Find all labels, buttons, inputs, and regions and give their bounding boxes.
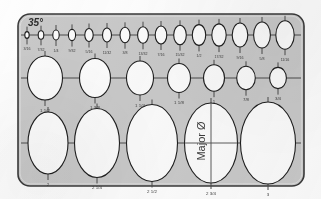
ellipse-hole[interactable] <box>212 24 226 46</box>
ellipse-size-label: 3 <box>267 192 270 197</box>
ellipse-hole[interactable] <box>28 56 63 100</box>
ellipse-hole[interactable] <box>103 28 112 42</box>
ellipse-hole[interactable] <box>127 61 154 95</box>
ellipse-size-label: 3/16 <box>24 47 31 51</box>
ellipse-size-label: 5/16 <box>86 50 93 54</box>
ellipse-hole[interactable] <box>232 23 248 47</box>
ellipse-hole[interactable] <box>127 105 178 182</box>
ellipse-hole[interactable] <box>53 30 59 40</box>
ellipse-hole[interactable] <box>174 25 187 44</box>
ellipse-size-label: 11/32 <box>103 51 112 55</box>
ellipse-size-label: 15/32 <box>176 53 185 57</box>
ellipse-hole[interactable] <box>80 59 111 98</box>
ellipse-size-label: 11/16 <box>281 58 290 62</box>
angle-label: 35° <box>28 17 44 28</box>
ellipse-size-label: 2 1/4 <box>92 185 102 190</box>
ellipse-hole[interactable] <box>155 26 167 44</box>
ellipse-size-label: 2 3/4 <box>206 191 216 196</box>
ellipse-size-label: 1 1/8 <box>174 100 184 105</box>
ellipse-hole[interactable] <box>120 27 130 42</box>
ellipse-size-label: 1/4 <box>54 49 59 53</box>
ellipse-hole[interactable] <box>25 32 29 39</box>
ellipse-hole[interactable] <box>85 29 93 42</box>
ellipse-hole[interactable] <box>75 109 120 178</box>
ellipse-size-label: 7/8 <box>243 97 250 102</box>
ellipse-size-label: 13/32 <box>139 52 148 56</box>
screenshot-root: 3/167/321/49/325/1611/323/813/327/1615/3… <box>0 0 321 199</box>
ellipse-size-label: 7/32 <box>38 48 45 52</box>
ellipse-hole[interactable] <box>237 66 256 89</box>
major-diameter-label: Major Ø <box>195 121 207 161</box>
ellipse-template-graphic: 3/167/321/49/325/1611/323/813/327/1615/3… <box>0 0 321 199</box>
ellipse-hole[interactable] <box>28 112 68 174</box>
ellipse-size-label: 3/8 <box>123 51 128 55</box>
ellipse-size-label: 2 1/2 <box>147 189 157 194</box>
ellipse-hole[interactable] <box>254 22 271 48</box>
ellipse-size-label: 3/4 <box>275 96 282 101</box>
ellipse-hole[interactable] <box>138 27 149 44</box>
ellipse-hole[interactable] <box>204 65 225 91</box>
ellipse-size-label: 9/32 <box>69 49 76 53</box>
ellipse-size-label: 1/2 <box>197 54 202 58</box>
ellipse-hole[interactable] <box>192 25 205 46</box>
ellipse-hole[interactable] <box>270 67 287 88</box>
ellipse-hole[interactable] <box>241 102 296 184</box>
ellipse-size-label: 17/32 <box>215 55 224 59</box>
ellipse-hole[interactable] <box>38 31 44 40</box>
ellipse-size-label: 7/16 <box>158 53 165 57</box>
ellipse-hole[interactable] <box>168 64 191 93</box>
ellipse-size-label: 5/8 <box>260 57 265 61</box>
ellipse-hole[interactable] <box>68 29 75 40</box>
ellipse-size-label: 9/16 <box>237 56 244 60</box>
ellipse-hole[interactable] <box>276 21 294 49</box>
